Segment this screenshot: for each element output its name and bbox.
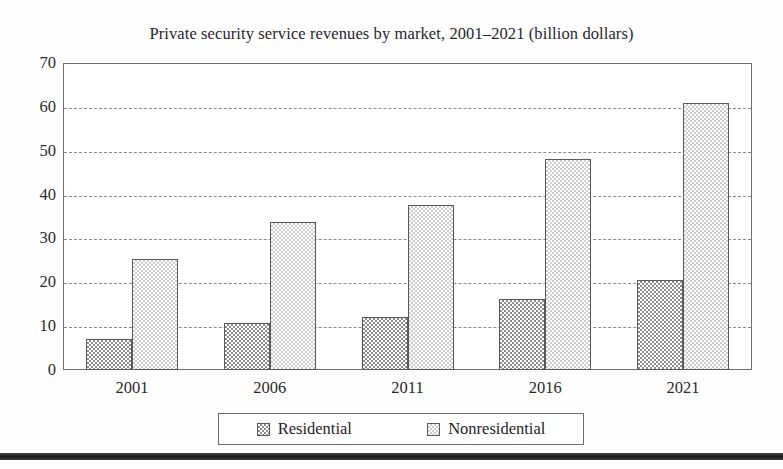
bar-nonresidential-2011: [408, 205, 454, 370]
chart-figure: Private security service revenues by mar…: [0, 0, 783, 469]
y-tick-label: 30: [40, 228, 57, 248]
legend-label: Residential: [278, 419, 352, 439]
bar-residential-2006: [224, 323, 270, 370]
bar-group: [362, 63, 454, 370]
x-tick-label: 2011: [391, 378, 423, 398]
y-tick-label: 0: [48, 360, 56, 380]
bar-group: [637, 63, 729, 370]
x-tick-label: 2016: [529, 378, 562, 398]
bar-residential-2016: [499, 299, 545, 370]
bar-group: [224, 63, 316, 370]
legend-entry-residential: Residential: [257, 419, 352, 439]
legend-entry-nonresidential: Nonresidential: [427, 419, 545, 439]
x-tick-label: 2006: [253, 378, 286, 398]
bar-residential-2021: [637, 280, 683, 370]
bar-nonresidential-2016: [545, 159, 591, 370]
y-tick-label: 20: [40, 272, 57, 292]
x-axis: 20012006201120162021: [63, 378, 752, 402]
bar-residential-2001: [86, 339, 132, 370]
chart-title: Private security service revenues by mar…: [0, 24, 783, 44]
bar-group: [499, 63, 591, 370]
bar-nonresidential-2001: [132, 259, 178, 370]
bar-nonresidential-2021: [683, 103, 729, 370]
y-axis: 010203040506070: [0, 63, 56, 370]
bar-nonresidential-2006: [270, 222, 316, 370]
page-bottom-rule: [0, 453, 783, 460]
y-tick-label: 60: [40, 97, 57, 117]
legend-swatch-icon: [257, 423, 270, 436]
y-tick-label: 40: [40, 185, 57, 205]
y-tick-label: 50: [40, 141, 57, 161]
x-tick-label: 2001: [115, 378, 148, 398]
y-tick-label: 10: [40, 316, 57, 336]
bar-residential-2011: [362, 317, 408, 370]
chart-legend: ResidentialNonresidential: [218, 413, 584, 445]
x-tick-label: 2021: [667, 378, 700, 398]
legend-label: Nonresidential: [448, 419, 545, 439]
bar-group: [86, 63, 178, 370]
y-tick-label: 70: [40, 53, 57, 73]
legend-swatch-icon: [427, 423, 440, 436]
bars-layer: [63, 63, 752, 370]
